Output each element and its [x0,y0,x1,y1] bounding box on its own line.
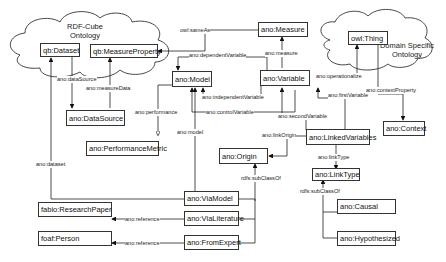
node-owl-thing[interactable]: owl:Thing [348,31,388,45]
node-linked-variables[interactable]: ano:LinkedVariables [306,129,370,145]
edge-label-measure: ano:measure [265,50,298,57]
edge-label-reference-expert: ano:reference [125,240,160,247]
edge-label-second-variable: ano:secondVariable [278,113,327,120]
node-measure-property[interactable]: qb:MeasureProperty [90,44,158,58]
node-performance-metric[interactable]: ano:PerformanceMetric [86,141,159,156]
node-via-literature[interactable]: ano:ViaLiterature [184,211,239,226]
edge-label-control-variable: ano:controlVariable [206,109,254,116]
node-link-type[interactable]: ano:LinkType [312,168,360,181]
edge-label-subclass-origin: rdfs:subClassOf [241,175,281,182]
node-context[interactable]: ano:Context [383,121,425,136]
rdf-cube-cloud-title: RDF-Cube Ontology [55,22,115,40]
edge-label-dataset: ano:dataset [36,161,65,168]
node-person[interactable]: foaf:Person [38,231,112,246]
edge-label-dependent-variable: ano:dependentVariable [189,52,246,59]
node-hypothesized[interactable]: ano:Hypothesized [337,231,396,246]
node-origin[interactable]: ano:Origin [219,148,268,164]
edge-label-context-property: ano:contextProperty [366,87,416,94]
node-measure[interactable]: ano:Measure [258,22,308,37]
edge-label-operationalize: ano:operationalize [316,73,362,80]
cloud-title-line: Ontology [55,31,115,40]
node-model[interactable]: ano:Model [172,71,212,87]
edge-label-subclass-linktype: rdfs:subClassOf [300,188,340,195]
cloud-title-line: RDF-Cube [55,22,115,31]
node-research-paper[interactable]: fabio:ResearchPaper [38,202,112,217]
edge-label-model: ano:model [177,129,203,136]
node-via-model[interactable]: ano:ViaModel [184,191,239,206]
node-data-source[interactable]: ano:DataSource [66,110,125,126]
node-from-expert[interactable]: ano:FromExpert [184,235,239,250]
edge-label-same-as: owl:sameAs [180,27,210,34]
edge-label-first-variable: ano:firstVariable [328,92,368,99]
edge-label-data-source: ano:dataSource [57,76,97,83]
node-dataset[interactable]: qb:Dataset [40,43,80,57]
edge-label-measure-data: ano:measureData [86,85,130,92]
node-variable[interactable]: ano:Variable [260,70,310,86]
edge-label-independent-variable: ano:independentVariable [202,94,264,101]
cloud-title-line: Ontology [376,50,438,59]
edge-label-link-type: ano:linkType [318,154,349,161]
edge-label-performance: ano:performance [135,109,177,116]
node-causal[interactable]: ano:Causal [337,199,396,214]
edge-label-link-origin: ano:linkOrigin [262,132,296,139]
edge-label-reference-literature: ano:reference [125,216,160,223]
